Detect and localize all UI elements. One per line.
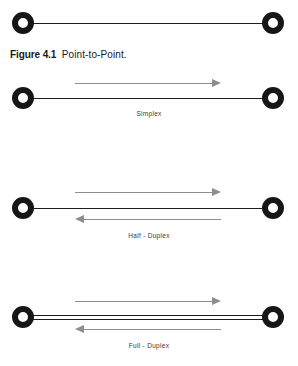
- node-endpoint-left: [12, 197, 34, 219]
- arrowhead-right-icon: [212, 297, 221, 305]
- connector-line-upper: [22, 315, 274, 316]
- arrow-shaft: [84, 329, 221, 330]
- connector-line: [22, 98, 274, 99]
- arrow-right: [75, 188, 221, 197]
- node-endpoint-right: [262, 197, 284, 219]
- arrowhead-left-icon: [75, 215, 84, 223]
- connector-line-lower: [22, 319, 274, 320]
- arrowhead-right-icon: [212, 79, 221, 87]
- arrowhead-left-icon: [75, 325, 84, 333]
- node-endpoint-right: [262, 306, 284, 328]
- label-half-duplex: Half - Duplex: [0, 232, 298, 239]
- node-endpoint-left: [12, 87, 34, 109]
- node-endpoint-left: [12, 12, 34, 34]
- arrow-shaft: [84, 219, 221, 220]
- figure-sheet: Figure 4.1 Point-to-Point. Simplex Half …: [0, 0, 298, 366]
- diagram-full-duplex: Full - Duplex: [0, 306, 298, 340]
- connector-line: [22, 208, 274, 209]
- arrow-right: [75, 297, 221, 306]
- node-endpoint-right: [262, 12, 284, 34]
- connector-line: [22, 23, 274, 24]
- node-endpoint-left: [12, 306, 34, 328]
- arrow-shaft: [75, 83, 212, 84]
- label-full-duplex: Full - Duplex: [0, 342, 298, 349]
- arrow-shaft: [75, 192, 212, 193]
- arrow-left: [75, 325, 221, 334]
- arrow-right: [75, 79, 221, 88]
- arrow-shaft: [75, 301, 212, 302]
- figure-caption-text: Point-to-Point.: [62, 49, 127, 60]
- arrow-left: [75, 215, 221, 224]
- figure-caption: Figure 4.1 Point-to-Point.: [10, 49, 127, 60]
- node-endpoint-right: [262, 87, 284, 109]
- arrowhead-right-icon: [212, 188, 221, 196]
- diagram-simplex: Simplex: [0, 87, 298, 121]
- figure-caption-label: Figure 4.1: [10, 49, 56, 60]
- label-simplex: Simplex: [0, 110, 298, 117]
- diagram-half-duplex: Half - Duplex: [0, 197, 298, 231]
- diagram-point-to-point: [0, 12, 298, 46]
